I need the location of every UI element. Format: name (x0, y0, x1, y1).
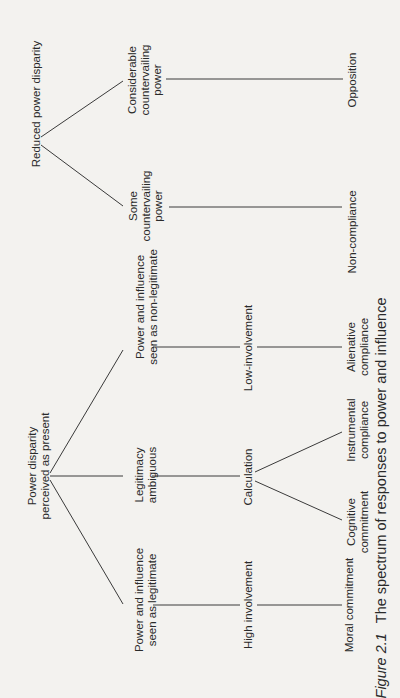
considerable-countervailing-label: Considerable countervailing power (126, 45, 164, 116)
instrumental-compliance-label: Instrumental compliance (345, 398, 370, 461)
legitimate-label: Power and influence seen as legitimate (133, 548, 158, 652)
reduced-power-disparity-label: Reduced power disparity (30, 41, 43, 168)
low-involvement-label: Low-involvement (242, 305, 255, 391)
non-compliance-label: Non-compliance (346, 190, 359, 273)
high-involvement-label: High involvement (242, 561, 255, 649)
calculation-label: Calculation (242, 449, 255, 506)
figure-caption: Figure 2.1The spectrum of responses to p… (373, 298, 389, 698)
moral-commitment-label: Moral commitment (343, 558, 356, 653)
power-disparity-present-label: Power disparity perceived as present (26, 413, 51, 520)
opposition-label: Opposition (346, 53, 359, 108)
legitimacy-ambiguous-label: Legitimacy ambiguous (133, 447, 158, 503)
figure-label: Figure 2.1 (373, 633, 389, 698)
cognitive-commitment-label: Cognitive commitment (345, 491, 370, 554)
alienative-compliance-label: Alienative compliance (345, 318, 370, 376)
non-legitimate-label: Power and influence seen as non-legitima… (134, 249, 159, 365)
figure-title: The spectrum of responses to power and i… (373, 298, 389, 624)
some-countervailing-label: Some countervailing power (127, 171, 165, 242)
